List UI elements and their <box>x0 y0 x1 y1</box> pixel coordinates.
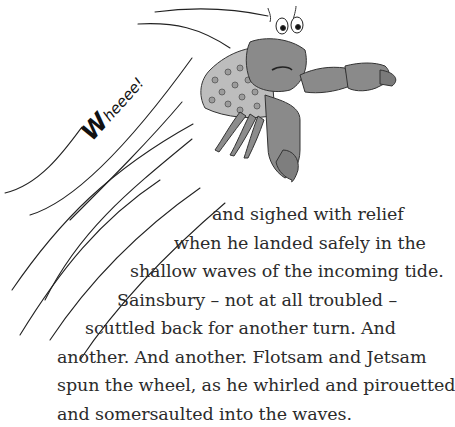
wheeee-exclamation: Wheeee! <box>76 69 150 146</box>
crab <box>201 6 396 182</box>
text-line-5: scuttled back for another turn. And <box>85 318 396 338</box>
text-line-8: and somersaulted into the waves. <box>57 404 352 424</box>
text-line-6: another. And another. Flotsam and Jetsam <box>57 347 426 367</box>
text-line-4: Sainsbury – not at all troubled – <box>117 290 397 310</box>
text-line-3: shallow waves of the incoming tide. <box>130 261 444 281</box>
text-line-7: spun the wheel, as he whirled and piroue… <box>57 375 455 395</box>
text-line-1: and sighed with relief <box>212 204 404 224</box>
text-line-2: when he landed safely in the <box>174 233 426 253</box>
